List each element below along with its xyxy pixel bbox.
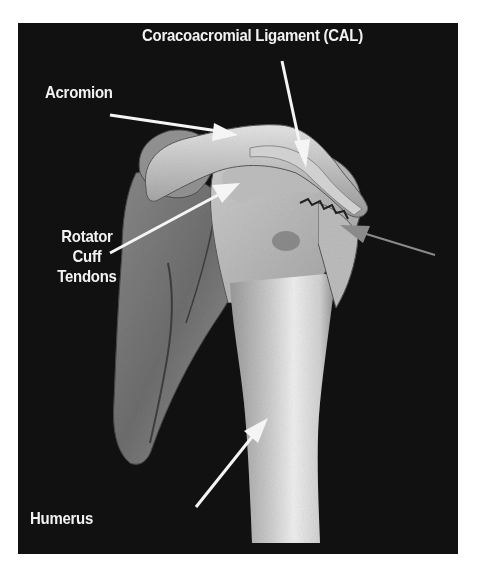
label-acromion: Acromion xyxy=(45,83,113,103)
humerus-shaft xyxy=(230,273,336,543)
figure-panel: Coracoacromial Ligament (CAL) Acromion R… xyxy=(18,23,458,554)
label-rotator-cuff-line3: Tendons xyxy=(39,267,136,287)
label-coracoacromial-ligament: Coracoacromial Ligament (CAL) xyxy=(142,26,363,46)
label-rotator-cuff-line1: Rotator xyxy=(39,227,136,247)
label-humerus: Humerus xyxy=(30,509,93,529)
label-rotator-cuff-line2: Cuff xyxy=(39,247,136,267)
label-rotator-cuff-tendons: Rotator Cuff Tendons xyxy=(39,227,136,287)
